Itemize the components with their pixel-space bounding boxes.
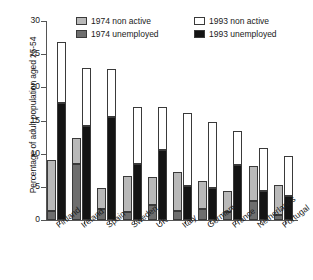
- y-axis-tick-label: 5: [14, 181, 40, 191]
- bar-segment-1993-non-active: [183, 113, 192, 187]
- y-axis-tick-label: 20: [14, 81, 40, 91]
- legend-item-1974-non-active: 1974 non active: [76, 16, 151, 26]
- bar-1974: [173, 172, 182, 220]
- y-axis-tick-label: 15: [14, 115, 40, 125]
- bar-segment-1993-unemployed: [82, 126, 91, 220]
- bar-group: [122, 21, 147, 220]
- y-axis-tick-label: 25: [14, 48, 40, 58]
- plot-area: [46, 21, 298, 220]
- bar-group: [96, 21, 121, 220]
- bar-1993: [82, 68, 91, 220]
- legend-label-1974-unemployed: 1974 unemployed: [91, 29, 159, 39]
- bar-segment-1993-non-active: [158, 107, 167, 151]
- bar-group: [172, 21, 197, 220]
- legend-swatch-icon-1993-unemployed: [194, 30, 205, 38]
- bar-segment-1993-unemployed: [57, 103, 66, 220]
- bar-1993: [259, 148, 268, 220]
- bar-group: [147, 21, 172, 220]
- bar-1974: [47, 160, 56, 220]
- bar-1974: [198, 181, 207, 220]
- legend-label-1974-non-active: 1974 non active: [91, 16, 151, 26]
- bar-segment-1993-non-active: [284, 156, 293, 196]
- bar-1993: [57, 42, 66, 220]
- bar-group: [71, 21, 96, 220]
- bar-segment-1974-non-active: [123, 176, 132, 212]
- legend-swatch-icon-1993-non-active: [194, 17, 205, 25]
- y-axis-tick-label: 10: [14, 148, 40, 158]
- chart-legend: 1974 non active 1974 unemployed 1993 non…: [76, 16, 301, 44]
- bars-layer: [46, 21, 298, 220]
- bar-group: [197, 21, 222, 220]
- legend-swatch-icon-1974-unemployed: [76, 30, 87, 38]
- legend-swatch-icon-1974-non-active: [76, 17, 87, 25]
- legend-label-1993-non-active: 1993 non active: [209, 16, 269, 26]
- bar-segment-1993-non-active: [259, 148, 268, 190]
- bar-segment-1974-non-active: [148, 177, 157, 206]
- bar-group: [248, 21, 273, 220]
- bar-1993: [107, 69, 116, 220]
- bar-group: [273, 21, 298, 220]
- x-axis-category-labels: FinlandIrelandSpainSwedenUKItalyGermanyF…: [46, 222, 298, 278]
- bar-segment-1993-unemployed: [107, 117, 116, 220]
- bar-segment-1993-non-active: [82, 68, 91, 126]
- bar-group: [46, 21, 71, 220]
- bar-segment-1974-non-active: [249, 166, 258, 201]
- bar-segment-1974-non-active: [173, 172, 182, 212]
- bar-segment-1974-unemployed: [173, 211, 182, 220]
- bar-segment-1974-non-active: [47, 160, 56, 211]
- bar-segment-1993-non-active: [233, 131, 242, 165]
- bar-group: [222, 21, 247, 220]
- bar-segment-1974-unemployed: [198, 209, 207, 220]
- bar-segment-1993-non-active: [208, 122, 217, 188]
- bar-segment-1993-non-active: [107, 69, 116, 117]
- chart-figure: Percentage of adult population aged 25-5…: [0, 0, 313, 280]
- legend-item-1974-unemployed: 1974 unemployed: [76, 29, 159, 39]
- bar-1993: [208, 122, 217, 220]
- bar-1993: [133, 107, 142, 220]
- bar-1993: [183, 113, 192, 220]
- legend-item-1993-non-active: 1993 non active: [194, 16, 269, 26]
- y-axis-tick-label: 0: [14, 214, 40, 224]
- legend-label-1993-unemployed: 1993 unemployed: [209, 29, 277, 39]
- bar-segment-1993-non-active: [57, 42, 66, 102]
- bar-segment-1974-unemployed: [47, 211, 56, 220]
- bar-1993: [158, 107, 167, 220]
- bar-segment-1974-non-active: [198, 181, 207, 209]
- y-axis-tick-label: 30: [14, 15, 40, 25]
- legend-item-1993-unemployed: 1993 unemployed: [194, 29, 277, 39]
- bar-segment-1974-non-active: [72, 138, 81, 165]
- bar-segment-1993-non-active: [133, 107, 142, 165]
